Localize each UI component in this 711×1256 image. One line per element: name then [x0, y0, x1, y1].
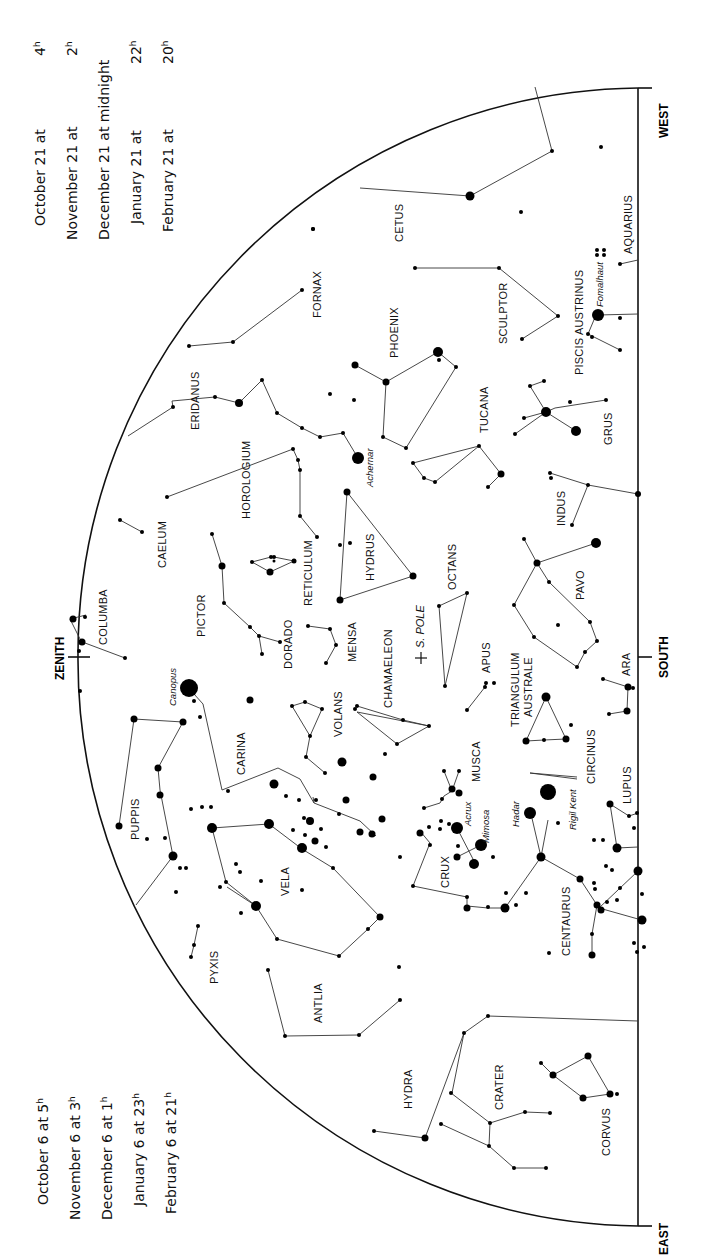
time-row-date: December 21 at midnight — [96, 59, 112, 240]
star-chart: CETUS AQUARIUS FORNAX SCULPTOR PISCIS AU… — [0, 0, 711, 1256]
time-row: January 6 at 23h — [131, 1093, 147, 1207]
time-row-date: October 21 at — [32, 129, 48, 226]
label-cetus: CETUS — [393, 204, 405, 242]
label-mimosa: Mimosa — [480, 810, 491, 843]
label-chamaeleon: CHAMAELEON — [382, 629, 394, 708]
label-rigil-kent: Rigil Kent — [567, 789, 578, 830]
label-reticulum: RETICULUM — [302, 540, 314, 606]
label-canopus: Canopus — [167, 668, 178, 706]
label-puppis: PUPPIS — [129, 798, 141, 840]
label-pyxis: PYXIS — [208, 951, 220, 984]
time-row-hour: 4h — [32, 41, 48, 56]
label-phoenix: PHOENIX — [388, 307, 400, 358]
label-volans: VOLANS — [332, 691, 344, 737]
time-row-hour: 20h — [160, 40, 176, 64]
label-zenith: ZENITH — [53, 637, 67, 680]
time-row-hour: 2h — [64, 41, 80, 56]
label-crux: CRUX — [439, 856, 451, 888]
label-indus: INDUS — [555, 491, 567, 526]
star-labels: Fomalhaut Achernar Canopus Acrux Mimosa … — [167, 262, 605, 843]
label-west: WEST — [657, 103, 671, 138]
label-east: EAST — [657, 1222, 671, 1255]
label-dorado: DORADO — [282, 619, 294, 669]
label-lupus: LUPUS — [621, 766, 633, 804]
label-aquarius: AQUARIUS — [622, 195, 634, 254]
label-triangulum-australe-1: TRIANGULUM — [509, 652, 521, 727]
label-pavo: PAVO — [574, 570, 586, 600]
time-table-top: October 21 at November 21 at December 21… — [32, 40, 176, 240]
label-eridanus: ERIDANUS — [189, 372, 201, 430]
label-horologium: HOROLOGIUM — [240, 441, 252, 519]
label-columba: COLUMBA — [97, 589, 109, 645]
label-sculptor: SCULPTOR — [497, 283, 509, 344]
label-fornax: FORNAX — [311, 271, 323, 319]
label-caelum: CAELUM — [156, 521, 168, 568]
label-achernar: Achernar — [364, 448, 375, 488]
time-row-date: November 21 at — [64, 126, 80, 240]
label-ara: ARA — [620, 652, 632, 676]
label-grus: GRUS — [602, 412, 614, 445]
label-musca: MUSCA — [470, 741, 482, 782]
label-corvus: CORVUS — [600, 1108, 612, 1156]
label-piscis-austrinus: PISCIS AUSTRINUS — [573, 270, 585, 375]
label-centaurus: CENTAURUS — [560, 887, 572, 956]
chart-frame — [68, 88, 652, 1226]
time-table-bottom: October 6 at 5h November 6 at 3h Decembe… — [35, 1092, 179, 1220]
time-row: November 6 at 3h — [67, 1096, 83, 1220]
label-tucana: TUCANA — [478, 386, 490, 433]
label-south-pole: S. POLE — [414, 605, 426, 648]
time-row-hour: 22h — [128, 40, 144, 64]
time-row-date: February 21 at — [160, 129, 176, 232]
label-hydrus: HYDRUS — [364, 533, 376, 581]
label-acrux: Acrux — [462, 800, 473, 827]
time-row-date: January 21 at — [128, 130, 144, 225]
label-vela: VELA — [279, 867, 291, 896]
time-row: October 6 at 5h — [35, 1098, 51, 1205]
label-octans: OCTANS — [446, 544, 458, 590]
label-hydra: HYDRA — [402, 1069, 414, 1109]
time-row: December 6 at 1h — [99, 1096, 115, 1220]
label-mensa: MENSA — [346, 621, 358, 662]
label-circinus: CIRCINUS — [585, 729, 597, 784]
label-crater: CRATER — [493, 1064, 505, 1110]
south-pole-marker — [415, 652, 427, 664]
label-pictor: PICTOR — [195, 594, 207, 637]
label-apus: APUS — [480, 642, 492, 673]
label-antlia: ANTLIA — [312, 983, 324, 1023]
stars — [70, 145, 647, 1170]
label-triangulum-australe-2: AUSTRALE — [522, 657, 534, 717]
label-hadar: Hadar — [510, 800, 521, 827]
label-carina: CARINA — [235, 732, 247, 775]
time-row: February 6 at 21h — [163, 1092, 179, 1214]
label-south: SOUTH — [657, 636, 671, 678]
label-fomalhaut: Fomalhaut — [594, 262, 605, 307]
